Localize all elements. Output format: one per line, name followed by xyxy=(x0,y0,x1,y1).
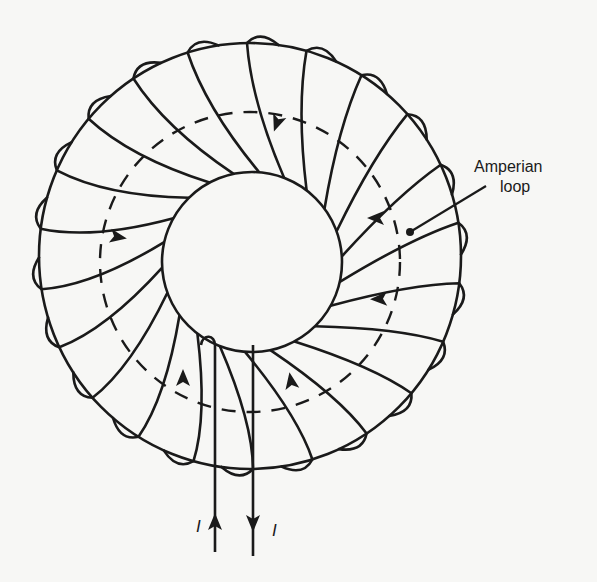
amperian-pointer-dot xyxy=(406,228,414,236)
winding-turn xyxy=(315,326,445,370)
amperian-label-line2: loop xyxy=(500,178,530,195)
current-label-left: I xyxy=(196,517,201,536)
toroid-diagram: Amperian loop I I xyxy=(0,0,597,582)
turn-arrow-top-icon xyxy=(267,113,286,134)
turn-arrow-bottom-right-icon xyxy=(283,371,300,390)
current-leads xyxy=(201,337,253,556)
winding-turn xyxy=(55,142,189,198)
winding-turn xyxy=(164,334,202,465)
winding-turn xyxy=(270,350,366,449)
winding-turn xyxy=(325,74,388,208)
winding-turn xyxy=(340,223,467,282)
winding-turn xyxy=(88,96,209,183)
current-label-right: I xyxy=(272,521,277,540)
winding-turn xyxy=(342,165,454,257)
turn-arrow-bottom-left-icon xyxy=(176,369,190,386)
amperian-label-line1: Amperian xyxy=(474,158,542,175)
winding-turn xyxy=(33,242,164,289)
turn-arrow-right-upper-icon xyxy=(367,211,384,225)
toroid-inner-hole xyxy=(162,172,342,352)
winding-turn xyxy=(247,37,284,178)
toroid-diagram-canvas: Amperian loop I I xyxy=(0,0,597,582)
